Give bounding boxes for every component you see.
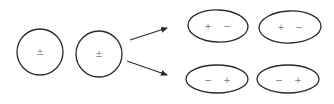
- diagram-canvas: ± ± + − + − − + − +: [0, 0, 334, 104]
- top-left-right-sign: −: [223, 21, 231, 31]
- sphere-1-charge-label: ±: [36, 47, 44, 57]
- arrow-down-icon: [127, 61, 167, 75]
- dipole-ellipse-top-left: [187, 9, 248, 43]
- dipole-ellipse-top-right: [258, 10, 321, 44]
- sphere-2-charge-label: ±: [95, 49, 103, 59]
- arrow-up-icon: [130, 28, 167, 40]
- bottom-left-right-sign: +: [223, 75, 231, 85]
- top-right-right-sign: −: [295, 22, 303, 32]
- polarization-diagram: ± ± + − + − − + − +: [0, 0, 334, 104]
- bottom-right-right-sign: +: [294, 75, 302, 85]
- bottom-right-left-sign: −: [275, 75, 283, 85]
- dipole-ellipse-bottom-right: [257, 65, 319, 93]
- top-right-left-sign: +: [277, 22, 285, 32]
- bottom-left-left-sign: −: [204, 75, 212, 85]
- top-left-left-sign: +: [204, 21, 212, 31]
- dipole-ellipse-bottom-left: [186, 65, 248, 93]
